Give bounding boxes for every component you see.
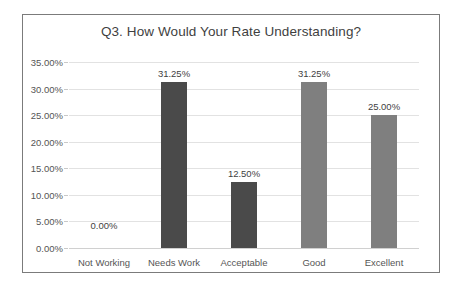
ytick-mark-0 [64, 248, 68, 249]
ytick-mark-15 [64, 168, 68, 169]
bar-value-excellent: 25.00% [368, 101, 400, 112]
ytick-label-30: 30.00% [31, 83, 63, 94]
ytick-label-15: 15.00% [31, 163, 63, 174]
category-label-acceptable: Acceptable [220, 257, 267, 268]
category-label-not-working: Not Working [78, 257, 130, 268]
bar-value-not-working: 0.00% [91, 220, 118, 231]
bar-good[interactable] [301, 82, 327, 248]
ytick-mark-25 [64, 115, 68, 116]
chart-title: Q3. How Would Your Rate Understanding? [23, 24, 439, 39]
chart-frame: Q3. How Would Your Rate Understanding? 3… [22, 14, 440, 273]
ytick-label-0: 0.00% [36, 243, 63, 254]
ytick-label-20: 20.00% [31, 136, 63, 147]
bar-band-needs-work: 31.25% Needs Work [139, 62, 209, 248]
ytick-mark-10 [64, 195, 68, 196]
bar-band-good: 31.25% Good [279, 62, 349, 248]
gridline-0: 0.00% [69, 248, 419, 249]
category-label-needs-work: Needs Work [148, 257, 200, 268]
ytick-label-5: 5.00% [36, 216, 63, 227]
bar-band-acceptable: 12.50% Acceptable [209, 62, 279, 248]
ytick-mark-30 [64, 89, 68, 90]
plot-area: 35.00% 30.00% 25.00% 20.00% 15.00% 10.00… [69, 62, 419, 248]
bar-band-excellent: 25.00% Excellent [349, 62, 419, 248]
category-label-good: Good [302, 257, 325, 268]
ytick-mark-20 [64, 142, 68, 143]
bar-needs-work[interactable] [161, 82, 187, 248]
ytick-label-25: 25.00% [31, 110, 63, 121]
bar-value-acceptable: 12.50% [228, 168, 260, 179]
ytick-label-35: 35.00% [31, 57, 63, 68]
ytick-mark-35 [64, 62, 68, 63]
bar-value-good: 31.25% [298, 68, 330, 79]
category-label-excellent: Excellent [365, 257, 404, 268]
bar-value-needs-work: 31.25% [158, 68, 190, 79]
ytick-label-10: 10.00% [31, 189, 63, 200]
ytick-mark-5 [64, 221, 68, 222]
bar-acceptable[interactable] [231, 182, 257, 248]
bar-excellent[interactable] [371, 115, 397, 248]
bar-band-not-working: 0.00% Not Working [69, 62, 139, 248]
